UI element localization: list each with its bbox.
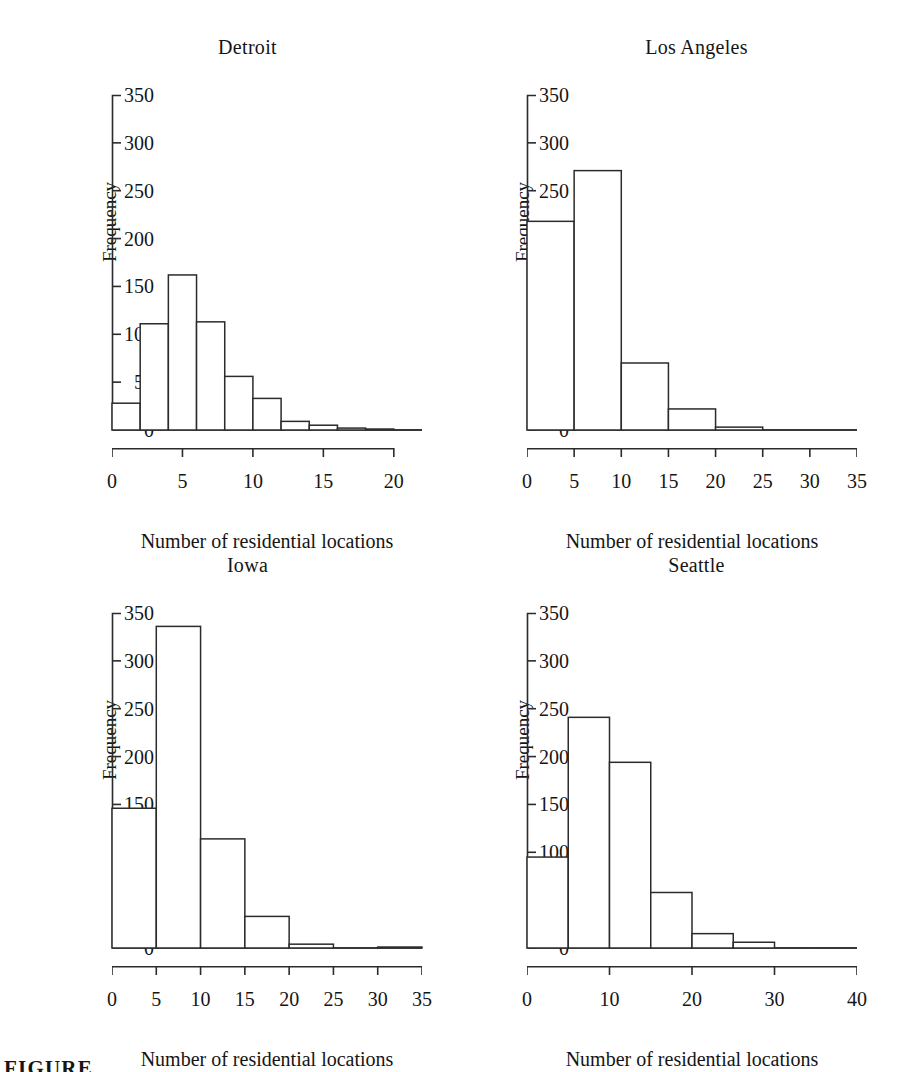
panel-los-angeles: Los Angeles Frequency 050100150200250300…	[449, 22, 898, 537]
panel-detroit: Detroit Frequency 050100150200250300350 …	[0, 22, 449, 537]
x-tick-15: 15	[313, 470, 333, 493]
x-tick-10: 10	[600, 988, 620, 1011]
panel-title-los-angeles: Los Angeles	[449, 36, 898, 59]
x-tick-5: 5	[569, 470, 579, 493]
x-axis-label-seattle: Number of residential locations	[527, 1048, 857, 1071]
figure-caption: FIGURE	[4, 1056, 93, 1072]
panel-title-iowa: Iowa	[0, 554, 449, 577]
x-tick-15: 15	[658, 470, 678, 493]
x-tick-10: 10	[191, 988, 211, 1011]
x-tick-20: 20	[706, 470, 726, 493]
plot-area-detroit: Frequency 050100150200250300350 05101520…	[112, 95, 422, 430]
x-tick-0: 0	[522, 988, 532, 1011]
panel-iowa: Iowa Frequency 050100150200250300350 051…	[0, 540, 449, 1055]
x-tick-30: 30	[765, 988, 785, 1011]
x-tick-labels-iowa: 05101520253035	[112, 948, 422, 988]
x-tick-5: 5	[177, 470, 187, 493]
x-tick-5: 5	[151, 988, 161, 1011]
x-tick-30: 30	[368, 988, 388, 1011]
x-tick-15: 15	[235, 988, 255, 1011]
panel-title-seattle: Seattle	[449, 554, 898, 577]
x-tick-25: 25	[323, 988, 343, 1011]
x-tick-labels-seattle: 010203040	[527, 948, 857, 988]
histogram-svg-iowa	[112, 613, 422, 948]
x-tick-10: 10	[611, 470, 631, 493]
x-tick-20: 20	[384, 470, 404, 493]
x-tick-35: 35	[847, 470, 867, 493]
x-tick-25: 25	[753, 470, 773, 493]
panel-seattle: Seattle Frequency 050100150200250300350 …	[449, 540, 898, 1055]
histogram-svg-detroit	[112, 95, 422, 430]
x-tick-40: 40	[847, 988, 867, 1011]
plot-area-seattle: Frequency 050100150200250300350 01020304…	[527, 613, 857, 948]
histogram-svg-los-angeles	[527, 95, 857, 430]
x-tick-0: 0	[107, 988, 117, 1011]
x-tick-30: 30	[800, 470, 820, 493]
x-tick-20: 20	[682, 988, 702, 1011]
plot-area-iowa: Frequency 050100150200250300350 05101520…	[112, 613, 422, 948]
x-axis-area-detroit: 05101520 Number of residential locations	[112, 430, 422, 550]
x-tick-35: 35	[412, 988, 432, 1011]
x-tick-0: 0	[522, 470, 532, 493]
x-tick-0: 0	[107, 470, 117, 493]
x-tick-labels-los-angeles: 05101520253035	[527, 430, 857, 470]
x-axis-area-iowa: 05101520253035 Number of residential loc…	[112, 948, 422, 1068]
x-axis-area-los-angeles: 05101520253035 Number of residential loc…	[527, 430, 857, 550]
plot-area-los-angeles: Frequency 050100150200250300350 05101520…	[527, 95, 857, 430]
x-tick-labels-detroit: 05101520	[112, 430, 422, 470]
x-axis-label-iowa: Number of residential locations	[112, 1048, 422, 1071]
x-tick-10: 10	[243, 470, 263, 493]
panel-title-detroit: Detroit	[0, 36, 449, 59]
x-tick-20: 20	[279, 988, 299, 1011]
histogram-svg-seattle	[527, 613, 857, 948]
x-axis-area-seattle: 010203040 Number of residential location…	[527, 948, 857, 1068]
